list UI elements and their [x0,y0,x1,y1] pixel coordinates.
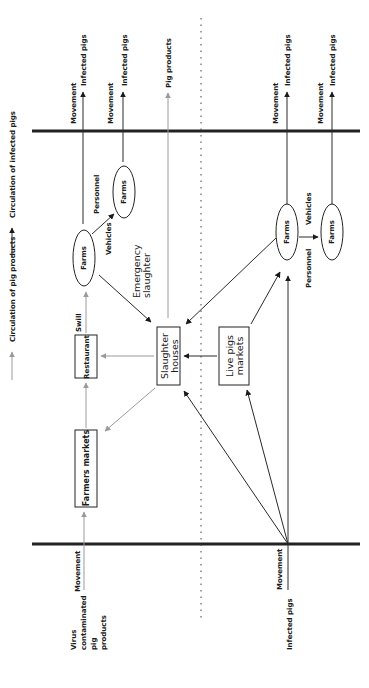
input-products-line3: pig [90,638,98,650]
node-live-pigs-markets: Live pigs markets [219,327,249,385]
input-pigs-movement: Movement [276,548,284,590]
node-farms-right-b: Farms [321,204,343,260]
personnel-right-label: Personnel [305,249,313,288]
node-farms-right-a: Farms [276,204,298,260]
live-markets-to-farms-right-arrow [251,272,280,324]
output-2-label: Infected pigs [121,34,129,86]
node-farms-left-b: Farms [73,230,95,286]
node-farms-left-a: Farms [113,166,135,218]
node-farmers-markets: Farmers markets [75,430,97,507]
legend: Circulation of pig products Circulation … [9,111,17,380]
output-4-label: Infected pigs [284,34,292,86]
svg-text:Farms: Farms [120,180,128,204]
legend-infected-label: Circulation of infected pigs [9,111,17,218]
output-3-label: Pig products [165,38,173,88]
output-5-movement: Movement [317,82,325,124]
input-products-line1: Virus [70,630,78,650]
pig-disease-circulation-diagram: Circulation of pig products Circulation … [0,0,369,688]
vehicles-right-label: Vehicles [305,192,313,225]
hub-to-slaughter-arrow [184,391,288,544]
slaughter-to-farmers-markets-arrow [105,388,155,431]
svg-text:Farmers markets: Farmers markets [82,430,91,507]
emergency-line2: slaughter [141,253,152,298]
input-pigs-label: Infected pigs [286,598,294,650]
svg-text:Farms: Farms [283,220,291,244]
output-1-label: Infected pigs [80,34,88,86]
swill-label: Swill [75,313,83,332]
personnel-left-label: Personnel [93,175,101,214]
input-products-movement: Movement [74,550,82,592]
vehicles-left-label: Vehicles [105,222,113,255]
top-outputs: Movement Infected pigs Movement Infected… [70,34,337,318]
svg-text:houses: houses [169,339,180,373]
node-slaughter-houses: Slaughter houses [157,327,180,385]
output-5-label: Infected pigs [329,34,337,86]
legend-products-label: Circulation of pig products [9,237,17,342]
bottom-inputs: Movement Virus contaminated pig products… [70,276,294,650]
output-1-movement: Movement [70,82,78,124]
input-products-line2: contaminated [80,595,88,650]
output-4-movement: Movement [272,82,280,124]
svg-text:Farms: Farms [80,246,88,270]
hub-to-live-markets-arrow [247,390,288,544]
farms-right-to-slaughter-arrow [186,238,276,324]
svg-text:markets: markets [234,337,245,376]
svg-text:Restaurant: Restaurant [83,334,91,379]
input-products-line4: products [100,615,108,650]
svg-text:Farms: Farms [328,220,336,244]
node-restaurant: Restaurant [75,334,97,379]
output-2-movement: Movement [107,82,115,124]
